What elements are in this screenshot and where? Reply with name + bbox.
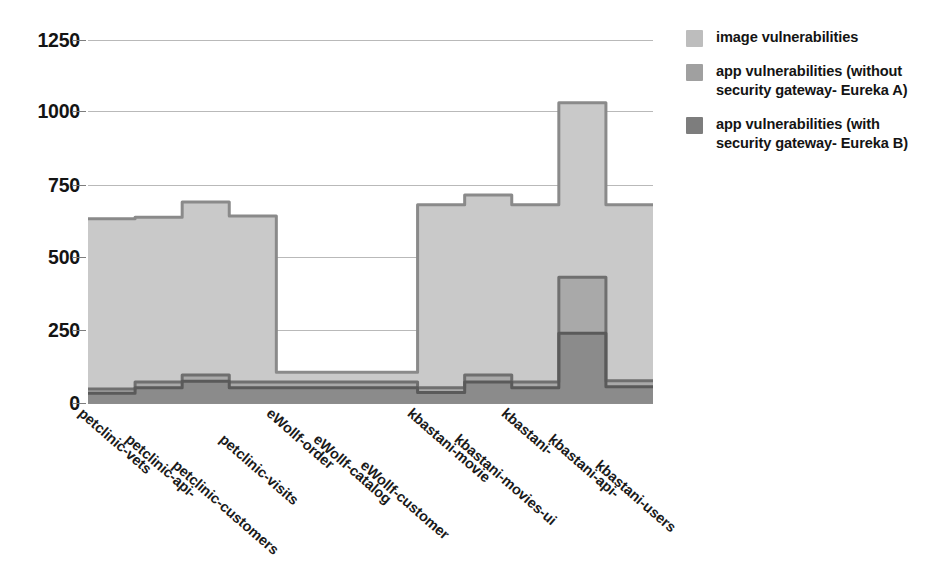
legend-label-app-vulnerabilities-eureka-a: app vulnerabilities (without security ga… (716, 62, 936, 101)
legend-item-app-vulnerabilities-eureka-a[interactable]: app vulnerabilities (without security ga… (686, 62, 936, 101)
chart-root: 1250 1000 750 500 250 0 petclinic-vetspe… (0, 0, 944, 585)
legend-label-app-vulnerabilities-eureka-b: app vulnerabilities (with security gatew… (716, 115, 936, 154)
y-axis: 1250 1000 750 500 250 0 (0, 40, 80, 403)
x-tick-label-6: eWollf-customer (358, 457, 453, 542)
legend-item-image-vulnerabilities[interactable]: image vulnerabilities (686, 28, 936, 48)
x-tick-label-7: kbastani-movie (405, 405, 494, 485)
series-svg (88, 40, 653, 404)
legend-swatch-app-vulnerabilities-eureka-a (686, 64, 703, 81)
x-tick-label-9: kbastani- (499, 405, 557, 458)
legend-item-app-vulnerabilities-eureka-b[interactable]: app vulnerabilities (with security gatew… (686, 115, 936, 154)
legend-swatch-app-vulnerabilities-eureka-b (686, 117, 703, 134)
chart-legend: image vulnerabilities app vulnerabilitie… (686, 28, 936, 168)
x-axis: petclinic-vetspetclinic-api-petclinic-cu… (88, 405, 653, 585)
legend-label-image-vulnerabilities: image vulnerabilities (716, 28, 858, 48)
x-tick-label-3: petclinic-visits (216, 431, 301, 508)
legend-swatch-image-vulnerabilities (686, 30, 703, 47)
plot-area (88, 40, 653, 403)
